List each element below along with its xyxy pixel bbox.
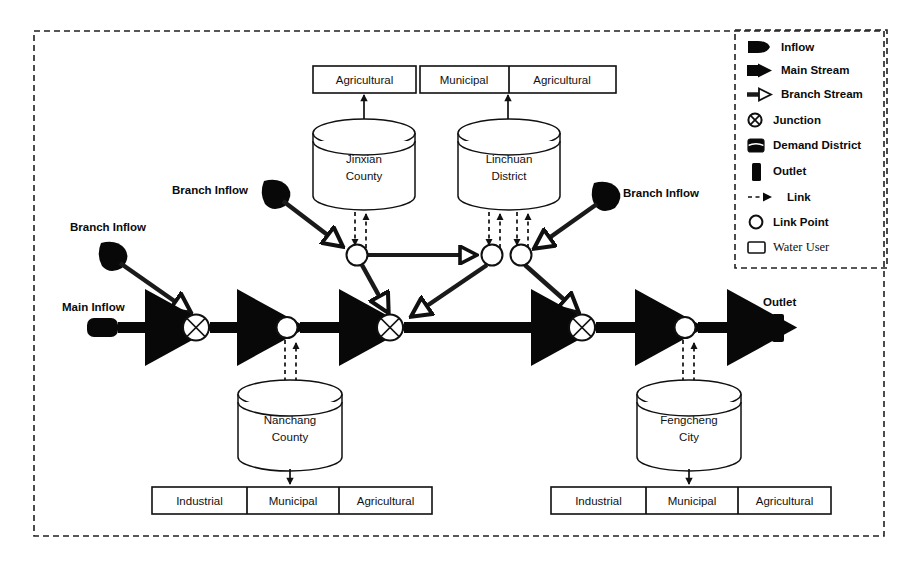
- diagram-canvas: Inflow Main Stream Branch Stream: [0, 0, 917, 565]
- branch-stream-1: [120, 263, 190, 312]
- demand-district-fengcheng-line2: City: [679, 431, 699, 443]
- branch-stream-lp3-junction3: [525, 265, 578, 312]
- link-point-icon: [750, 216, 763, 229]
- demand-district-jinxian-line1: Jinxian: [346, 153, 382, 165]
- water-user-label-fengcheng-agricultural: Agricultural: [756, 495, 814, 507]
- demand-district-linchuan-line1: Linchuan: [486, 153, 533, 165]
- demand-district-jinxian-line2: County: [346, 170, 383, 182]
- water-user-label-nanchang-agricultural: Agricultural: [357, 495, 415, 507]
- legend-item-water-user: Water User: [748, 240, 830, 254]
- demand-district-icon: [748, 139, 764, 152]
- branch-inflow-label-1: Branch Inflow: [70, 221, 146, 233]
- demand-district-fengcheng: Fengcheng City: [637, 380, 741, 471]
- legend-panel: Inflow Main Stream Branch Stream: [735, 30, 887, 268]
- outlet-block: [772, 314, 784, 342]
- legend-item-demand-district: Demand District: [748, 139, 861, 152]
- branch-stream-lp2-junction2: [412, 265, 487, 316]
- water-user-box-linchuan: Municipal Agricultural: [420, 66, 616, 93]
- junction-node-1: [183, 315, 209, 341]
- water-user-box-fengcheng: Industrial Municipal Agricultural: [551, 487, 831, 514]
- outlet-label: Outlet: [763, 296, 796, 308]
- legend-label-outlet: Outlet: [773, 165, 806, 177]
- legend-label-link: Link: [787, 191, 811, 203]
- legend-label-junction: Junction: [773, 114, 821, 126]
- legend-item-branch-stream: Branch Stream: [747, 88, 863, 100]
- link-point-node-lp2: [482, 245, 503, 266]
- demand-district-linchuan: Linchuan District: [458, 119, 560, 210]
- main-inflow-label: Main Inflow: [62, 301, 125, 313]
- water-user-label-nanchang-industrial: Industrial: [176, 495, 223, 507]
- water-user-label-fengcheng-municipal: Municipal: [668, 495, 717, 507]
- branch-inflow-label-2: Branch Inflow: [172, 184, 248, 196]
- branch-stream-icon: [747, 89, 771, 101]
- demand-district-nanchang: Nanchang County: [238, 380, 342, 471]
- branch-inflow-label-3: Branch Inflow: [623, 187, 699, 199]
- water-user-label-linchuan-agricultural: Agricultural: [533, 74, 591, 86]
- legend-label-main-stream: Main Stream: [781, 64, 849, 76]
- legend-label-demand-district: Demand District: [773, 139, 861, 151]
- demand-district-jinxian: Jinxian County: [313, 119, 415, 210]
- demand-district-linchuan-line2: District: [491, 170, 527, 182]
- legend-item-link: Link: [748, 191, 811, 203]
- legend-label-water-user: Water User: [773, 240, 830, 254]
- demand-district-nanchang-line2: County: [272, 431, 309, 443]
- legend-item-main-stream: Main Stream: [747, 64, 849, 78]
- branch-stream-lp1-junction2: [362, 265, 388, 312]
- legend-item-inflow: Inflow: [748, 41, 814, 53]
- inflow-icon: [748, 41, 770, 53]
- legend-item-junction: Junction: [748, 113, 821, 126]
- legend-item-outlet: Outlet: [752, 163, 806, 181]
- water-user-box-nanchang: Industrial Municipal Agricultural: [152, 487, 432, 514]
- link-icon: [748, 193, 772, 202]
- junction-node-2: [377, 315, 403, 341]
- water-user-label-jinxian-agricultural: Agricultural: [336, 74, 394, 86]
- water-user-label-fengcheng-industrial: Industrial: [575, 495, 622, 507]
- main-stream-icon: [747, 64, 772, 78]
- branch-stream-3: [535, 204, 597, 248]
- link-point-node-lp3: [511, 245, 532, 266]
- junction-icon: [748, 113, 761, 126]
- water-user-label-nanchang-municipal: Municipal: [269, 495, 318, 507]
- demand-district-fengcheng-line1: Fengcheng: [660, 414, 718, 426]
- legend-label-inflow: Inflow: [781, 41, 814, 53]
- legend-item-link-point: Link Point: [750, 216, 829, 229]
- link-point-node-a: [277, 317, 298, 338]
- main-inflow-source: [87, 318, 118, 337]
- water-user-label-linchuan-municipal: Municipal: [440, 74, 489, 86]
- demand-district-nanchang-line1: Nanchang: [264, 414, 316, 426]
- junction-node-3: [569, 315, 595, 341]
- legend-label-branch-stream: Branch Stream: [781, 88, 863, 100]
- water-user-box-jinxian: Agricultural: [313, 66, 416, 93]
- water-user-icon: [748, 242, 765, 253]
- outlet-icon: [752, 163, 761, 181]
- link-point-node-lp1: [347, 245, 368, 266]
- link-point-node-b: [675, 317, 696, 338]
- legend-label-link-point: Link Point: [773, 216, 829, 228]
